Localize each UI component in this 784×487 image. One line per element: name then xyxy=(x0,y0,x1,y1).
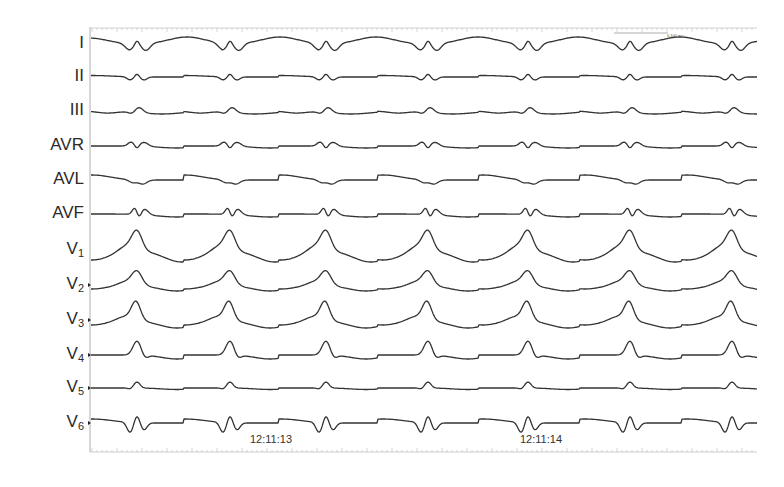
trace-v3 xyxy=(91,301,757,328)
lead-label-v3: V3 xyxy=(67,310,84,329)
trace-iii xyxy=(91,108,757,114)
lead-label-ii: II xyxy=(75,67,84,84)
lead-label-avf: AVF xyxy=(52,204,84,221)
trace-v4 xyxy=(91,341,757,359)
lead-label-v4: V4 xyxy=(67,345,84,364)
trace-v6 xyxy=(91,417,757,432)
lead-label-iii: III xyxy=(70,101,84,118)
time-label-1: 12:11:13 xyxy=(250,433,292,445)
lead-label-v6: V6 xyxy=(67,413,84,432)
trace-v5 xyxy=(91,382,757,389)
trace-i xyxy=(91,37,757,50)
ecg-chart xyxy=(0,0,784,487)
lead-label-avr: AVR xyxy=(50,136,84,153)
lead-label-v2: V2 xyxy=(67,275,84,294)
trace-avl xyxy=(91,175,757,184)
lead-label-v5: V5 xyxy=(67,378,84,397)
trace-avf xyxy=(91,208,757,217)
ecg-traces xyxy=(91,37,757,432)
scale-bar-label: 0.100 ms xyxy=(667,33,683,38)
lead-label-v1: V1 xyxy=(67,240,84,259)
trace-ii xyxy=(91,74,757,80)
lead-label-avl: AVL xyxy=(53,170,84,187)
time-label-2: 12:11:14 xyxy=(520,433,562,445)
trace-v2 xyxy=(91,271,757,291)
lead-label-i: I xyxy=(79,34,84,51)
trace-v1 xyxy=(91,230,757,262)
trace-avr xyxy=(91,142,757,148)
